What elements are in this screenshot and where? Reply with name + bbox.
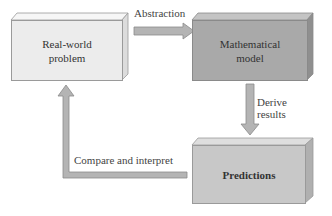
real-world-label-line2: problem xyxy=(42,51,91,65)
derive-results-label: Derive results xyxy=(257,96,287,120)
predictions-label: Predictions xyxy=(223,168,276,182)
math-model-label-line1: Mathematical xyxy=(220,37,280,51)
predictions-face: Predictions xyxy=(192,145,306,204)
abstraction-label: Abstraction xyxy=(134,7,185,19)
real-world-label-line1: Real-world xyxy=(42,37,91,51)
derive-label-line2: results xyxy=(257,108,287,120)
compare-interpret-label: Compare and interpret xyxy=(74,154,173,166)
abstraction-arrow-icon xyxy=(134,23,194,39)
real-world-problem-face: Real-world problem xyxy=(11,20,123,81)
modeling-cycle-diagram: Real-world problem Mathematical model Pr… xyxy=(0,0,332,216)
mathematical-model-face: Mathematical model xyxy=(192,20,308,81)
math-model-label-line2: model xyxy=(220,51,280,65)
derive-label-line1: Derive xyxy=(257,96,287,108)
